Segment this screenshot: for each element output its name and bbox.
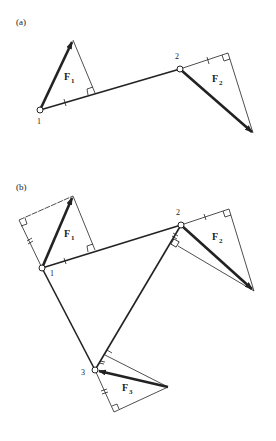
node-1 (37, 107, 43, 113)
member-1-3 (42, 268, 95, 370)
f2-base-line (180, 53, 228, 69)
panel-b-label: (b) (16, 182, 27, 192)
force-arrow-f3 (99, 371, 168, 387)
node-1-label: 1 (37, 117, 41, 126)
panel-a-label: (a) (16, 17, 26, 27)
f3-projection-line (105, 355, 168, 387)
force-label-f1: F1 (64, 228, 75, 242)
right-angle-marker (87, 244, 93, 252)
tick-mark (207, 57, 209, 64)
panel-a: (a) F1 F2 1 2 (16, 17, 253, 133)
f1-component-line (19, 220, 42, 268)
node-3-label: 3 (81, 368, 85, 377)
force-label-f3: F3 (122, 382, 133, 396)
right-angle-marker (87, 87, 93, 95)
f3-component-line (95, 370, 114, 412)
node-1 (39, 265, 45, 271)
node-2-label: 2 (175, 52, 179, 61)
force-diagram: (a) F1 F2 1 2 (b) (0, 0, 276, 441)
node-2-label: 2 (176, 208, 180, 217)
f1-projection-line (73, 196, 95, 250)
node-3 (92, 367, 98, 373)
node-2 (178, 222, 184, 228)
force-label-f2: F2 (212, 73, 223, 87)
node-2 (177, 66, 183, 72)
tick-mark (99, 363, 104, 364)
f1-projection-line (73, 40, 95, 93)
force-label-f2: F2 (212, 231, 223, 245)
node-1-label: 1 (50, 269, 54, 278)
right-angle-marker (21, 218, 27, 226)
member-2-3 (95, 225, 181, 370)
panel-b: (b) F1 F2 (16, 182, 254, 412)
right-angle-marker (112, 404, 119, 409)
force-label-f1: F1 (64, 71, 75, 85)
member-1-2 (40, 69, 180, 110)
